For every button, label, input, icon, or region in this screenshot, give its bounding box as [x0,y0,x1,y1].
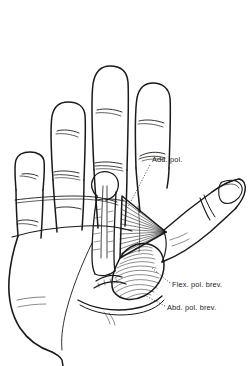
ring-finger [51,102,86,232]
label-add-pol: Add. pol. [152,155,183,164]
abductor-pollicis-brevis-muscle [78,276,164,325]
middle-finger [92,66,129,228]
palm [9,196,132,366]
thumbnail [219,180,242,203]
thumb [162,179,245,262]
little-finger [15,152,45,238]
anatomical-figure: Add. pol. Flex. pol. brev. Abd. pol. bre… [0,0,249,366]
index-finger [135,83,170,212]
label-flex-pol-brev: Flex. pol. brev. [172,280,222,289]
label-abd-pol-brev: Abd. pol. brev. [167,303,216,312]
leader-line-flex-pol-brev [152,268,170,283]
